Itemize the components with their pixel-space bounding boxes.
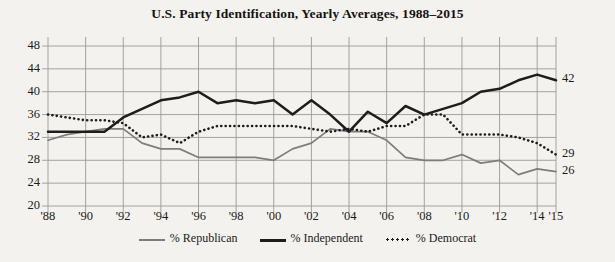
x-tick-label: '96 bbox=[183, 209, 215, 224]
y-tick-label: 44 bbox=[14, 61, 40, 76]
end-label-republican: 26 bbox=[562, 163, 575, 178]
legend-label-democrat: % Democrat bbox=[416, 231, 476, 246]
x-tick-label: '94 bbox=[145, 209, 177, 224]
line-swatch-democrat-icon bbox=[385, 234, 411, 244]
end-label-democrat: 29 bbox=[562, 146, 575, 161]
x-tick-label: '92 bbox=[107, 209, 139, 224]
legend-item-republican[interactable]: % Republican bbox=[139, 231, 238, 246]
x-tick-label: '02 bbox=[295, 209, 327, 224]
x-tick-label: '15 bbox=[540, 209, 572, 224]
x-tick-label: '88 bbox=[32, 209, 64, 224]
legend-label-republican: % Republican bbox=[170, 231, 238, 246]
y-tick-label: 32 bbox=[14, 129, 40, 144]
party-identification-chart: U.S. Party Identification, Yearly Averag… bbox=[0, 0, 615, 262]
y-tick-label: 48 bbox=[14, 38, 40, 53]
y-tick-label: 24 bbox=[14, 175, 40, 190]
series-line-democrat bbox=[48, 115, 556, 155]
y-tick-label: 28 bbox=[14, 152, 40, 167]
x-tick-label: '08 bbox=[408, 209, 440, 224]
x-tick-label: '98 bbox=[220, 209, 252, 224]
x-tick-label: '12 bbox=[484, 209, 516, 224]
x-tick-label: '06 bbox=[371, 209, 403, 224]
end-label-independent: 42 bbox=[562, 71, 575, 86]
series-line-independent bbox=[48, 75, 556, 132]
chart-legend: % Republican % Independent % Democrat bbox=[0, 231, 615, 246]
x-tick-label: '10 bbox=[446, 209, 478, 224]
legend-label-independent: % Independent bbox=[291, 231, 363, 246]
x-tick-label: '90 bbox=[70, 209, 102, 224]
y-tick-label: 36 bbox=[14, 107, 40, 122]
series-line-republican bbox=[48, 129, 556, 175]
legend-item-democrat[interactable]: % Democrat bbox=[385, 231, 476, 246]
line-swatch-republican-icon bbox=[139, 234, 165, 244]
x-tick-label: '04 bbox=[333, 209, 365, 224]
line-swatch-independent-icon bbox=[260, 234, 286, 244]
x-tick-label: '00 bbox=[258, 209, 290, 224]
y-tick-label: 40 bbox=[14, 84, 40, 99]
legend-item-independent[interactable]: % Independent bbox=[260, 231, 363, 246]
